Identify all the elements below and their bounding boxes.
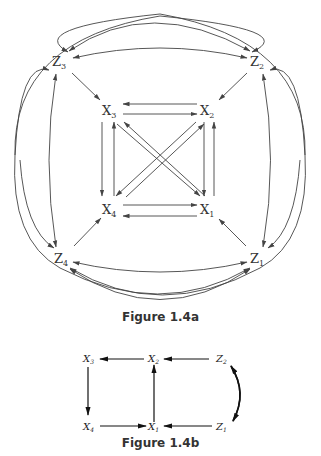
node-z4: Z4 bbox=[54, 251, 68, 268]
node-z1: Z1 bbox=[250, 251, 264, 268]
figure-a-caption: Figure 1.4a bbox=[0, 310, 321, 324]
node-x1: X1 bbox=[200, 202, 214, 219]
node-z2: Z2 bbox=[250, 54, 264, 71]
figure-b-caption: Figure 1.4b bbox=[0, 436, 321, 450]
node-x2: X2 bbox=[200, 103, 214, 120]
node-b-x1: X1 bbox=[147, 421, 159, 433]
node-b-z1: Z1 bbox=[215, 421, 227, 433]
node-x3: X3 bbox=[102, 103, 116, 120]
node-b-x2: X2 bbox=[147, 353, 159, 365]
node-b-x3: X3 bbox=[82, 353, 94, 365]
node-b-z2: Z2 bbox=[215, 353, 227, 365]
figure-b-edges bbox=[88, 359, 240, 426]
node-b-x4: X4 bbox=[82, 421, 94, 433]
figure-1-4a-diagram: Z3 Z2 X3 X2 X4 X1 Z4 Z1 X3 X2 Z2 X4 X1 Z… bbox=[0, 0, 321, 456]
node-x4: X4 bbox=[102, 202, 116, 219]
node-z3: Z3 bbox=[52, 54, 66, 71]
